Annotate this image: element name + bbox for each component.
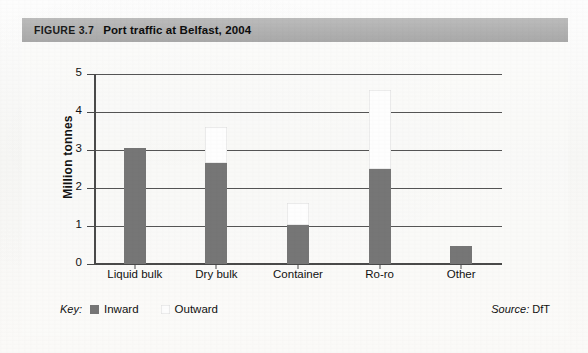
legend-swatch-outward-icon	[161, 305, 170, 314]
bar-segment-outward[interactable]	[369, 90, 391, 169]
y-axis-tick	[87, 226, 94, 227]
source-note: Source: DfT	[491, 303, 550, 315]
bar-group[interactable]	[257, 74, 339, 264]
legend-label-inward: Inward	[104, 303, 139, 315]
bar-segment-outward[interactable]	[205, 127, 227, 162]
source-value: DfT	[532, 303, 550, 315]
figure-title: Port traffic at Belfast, 2004	[103, 24, 251, 36]
figure-header-bar: FIGURE 3.7 Port traffic at Belfast, 2004	[22, 18, 568, 42]
bar-stack[interactable]	[124, 148, 146, 264]
y-axis-tick-label: 3	[62, 142, 82, 154]
chart-plot-area: Million tonnes 012345 Liquid bulkDry bul…	[22, 46, 568, 298]
figure-number: FIGURE 3.7	[34, 24, 94, 36]
legend-swatch-inward-icon	[90, 305, 99, 314]
figure-footer: Key: Inward Outward Source: DfT	[22, 300, 568, 324]
bar-group[interactable]	[176, 74, 258, 264]
bar-segment-inward[interactable]	[205, 163, 227, 264]
bars-layer	[94, 74, 502, 264]
bar-segment-inward[interactable]	[369, 169, 391, 264]
x-axis-label: Other	[411, 268, 511, 280]
chart-legend: Key: Inward Outward	[60, 303, 240, 315]
bar-stack[interactable]	[205, 127, 227, 264]
y-axis-tick	[87, 188, 94, 189]
source-label: Source:	[491, 303, 529, 315]
y-axis-tick-label: 0	[62, 256, 82, 268]
y-axis-tick-label: 5	[62, 66, 82, 78]
y-axis-tick-label: 1	[62, 218, 82, 230]
y-axis-tick	[87, 112, 94, 113]
bar-segment-inward[interactable]	[124, 148, 146, 264]
legend-label-outward: Outward	[175, 303, 218, 315]
bar-group[interactable]	[339, 74, 421, 264]
bar-segment-inward[interactable]	[450, 246, 472, 264]
bar-stack[interactable]	[450, 246, 472, 264]
legend-key-label: Key:	[60, 303, 82, 315]
y-axis-tick	[87, 74, 94, 75]
y-axis-tick-label: 2	[62, 180, 82, 192]
bar-group[interactable]	[94, 74, 176, 264]
y-axis-tick-label: 4	[62, 104, 82, 116]
bar-segment-inward[interactable]	[287, 225, 309, 264]
figure-header-text: FIGURE 3.7 Port traffic at Belfast, 2004	[22, 24, 251, 36]
bar-group[interactable]	[420, 74, 502, 264]
figure-root: FIGURE 3.7 Port traffic at Belfast, 2004…	[0, 0, 588, 353]
bar-stack[interactable]	[369, 90, 391, 264]
bar-segment-outward[interactable]	[287, 203, 309, 225]
y-axis-tick	[87, 264, 94, 265]
bar-stack[interactable]	[287, 203, 309, 264]
y-axis-tick	[87, 150, 94, 151]
